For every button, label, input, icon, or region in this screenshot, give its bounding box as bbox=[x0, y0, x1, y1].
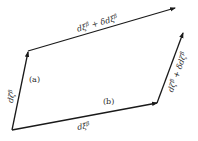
vector-top-arrow bbox=[28, 8, 175, 51]
vector-left-label: dζβ​ bbox=[5, 89, 17, 103]
path-b-label: (b) bbox=[103, 97, 114, 106]
path-a-label: (a) bbox=[29, 75, 40, 84]
vector-bottom-label: dξβ​ bbox=[76, 120, 90, 132]
vector-left-arrow bbox=[12, 52, 28, 130]
parallelogram-diagram: dζβ​ (a) dξβ​ + δdξβ​ (b) dξβ​ dζβ​ + δd… bbox=[0, 0, 198, 141]
